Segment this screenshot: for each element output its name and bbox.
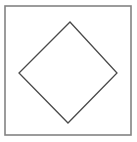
figure-container — [0, 0, 137, 142]
outer-square-frame — [5, 6, 131, 135]
figure-canvas — [0, 0, 137, 142]
